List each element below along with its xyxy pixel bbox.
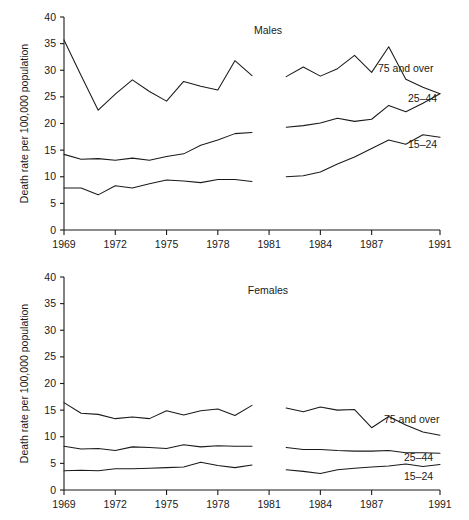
y-tick-label: 40 [44, 271, 56, 283]
x-tick-label: 1969 [52, 238, 76, 250]
y-tick-label: 0 [50, 224, 56, 236]
y-tick-label: 10 [44, 170, 56, 182]
x-tick-label: 1981 [257, 498, 281, 510]
chart-svg-males: 0510152025303540196919721975197819811984… [0, 0, 469, 260]
figure-root: 0510152025303540196919721975197819811984… [0, 0, 469, 520]
series-label-75-and-over: 75 and over [378, 62, 434, 74]
y-tick-label: 30 [44, 64, 56, 76]
x-tick-label: 1981 [257, 238, 281, 250]
y-tick-label: 25 [44, 90, 56, 102]
y-tick-label: 20 [44, 377, 56, 389]
x-tick-label: 1972 [104, 238, 128, 250]
x-tick-label: 1984 [309, 238, 333, 250]
x-tick-label: 1975 [155, 498, 179, 510]
y-tick-label: 25 [44, 350, 56, 362]
series-label-15-24: 15–24 [408, 138, 437, 150]
y-tick-label: 35 [44, 37, 56, 49]
series-label-15-24: 15–24 [404, 470, 433, 482]
x-tick-label: 1969 [52, 498, 76, 510]
y-tick-label: 30 [44, 324, 56, 336]
panel-title: Females [248, 284, 288, 296]
series-label-25-44: 25–44 [404, 451, 433, 463]
x-tick-label: 1978 [206, 238, 230, 250]
chart-svg-females: 0510152025303540196919721975197819811984… [0, 260, 469, 520]
series-line-25-44 [64, 133, 252, 161]
x-tick-label: 1978 [206, 498, 230, 510]
series-line-75-and-over [64, 403, 252, 419]
series-line-25-44 [64, 445, 252, 451]
series-label-25-44: 25–44 [408, 92, 437, 104]
x-tick-label: 1984 [309, 498, 333, 510]
y-tick-label: 35 [44, 297, 56, 309]
x-tick-label: 1991 [428, 238, 452, 250]
y-tick-label: 15 [44, 144, 56, 156]
x-tick-label: 1972 [104, 498, 128, 510]
series-line-75-and-over [64, 40, 252, 110]
series-line-15-24 [64, 462, 252, 471]
y-tick-label: 5 [50, 197, 56, 209]
y-tick-label: 15 [44, 404, 56, 416]
series-label-75-and-over: 75 and over [384, 413, 440, 425]
series-line-15-24 [64, 179, 252, 194]
y-tick-label: 0 [50, 484, 56, 496]
x-tick-label: 1991 [428, 498, 452, 510]
x-tick-label: 1975 [155, 238, 179, 250]
x-tick-label: 1987 [360, 238, 384, 250]
y-tick-label: 10 [44, 430, 56, 442]
y-axis-label: Death rate per 100,000 population [18, 304, 30, 464]
x-tick-label: 1987 [360, 498, 384, 510]
y-tick-label: 20 [44, 117, 56, 129]
panel-title: Males [254, 24, 282, 36]
y-tick-label: 40 [44, 11, 56, 23]
chart-panel-males: 0510152025303540196919721975197819811984… [0, 0, 469, 260]
y-axis-label: Death rate per 100,000 population [18, 44, 30, 204]
y-tick-label: 5 [50, 457, 56, 469]
chart-panel-females: 0510152025303540196919721975197819811984… [0, 260, 469, 520]
